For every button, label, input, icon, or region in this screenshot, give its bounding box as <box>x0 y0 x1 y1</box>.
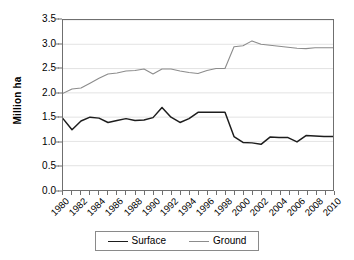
x-tick-mark <box>189 191 190 195</box>
line-chart: Million ha 0.00.51.01.52.02.53.03.5 1980… <box>0 0 354 260</box>
y-tick-mark <box>58 68 62 69</box>
x-tick-mark <box>316 191 317 195</box>
x-tick-mark <box>171 191 172 195</box>
x-tick-mark <box>116 191 117 195</box>
y-tick-mark <box>58 43 62 44</box>
x-tick-mark <box>153 191 154 195</box>
x-tick-mark <box>107 191 108 195</box>
x-tick-mark <box>234 191 235 195</box>
x-tick-mark <box>62 191 63 195</box>
y-tick-mark <box>58 19 62 20</box>
x-tick-mark <box>144 191 145 195</box>
x-tick-mark <box>162 191 163 195</box>
x-tick-mark <box>125 191 126 195</box>
x-tick-mark <box>180 191 181 195</box>
x-tick-mark <box>325 191 326 195</box>
y-tick-mark <box>58 117 62 118</box>
x-tick-mark <box>135 191 136 195</box>
x-tick-mark <box>334 191 335 195</box>
x-tick-mark <box>216 191 217 195</box>
x-tick-mark <box>225 191 226 195</box>
x-tick-mark <box>243 191 244 195</box>
x-tick-mark <box>280 191 281 195</box>
x-tick-mark <box>252 191 253 195</box>
x-tick-mark <box>289 191 290 195</box>
x-tick-mark <box>80 191 81 195</box>
x-tick-mark <box>307 191 308 195</box>
x-tick-mark <box>98 191 99 195</box>
x-tick-mark <box>271 191 272 195</box>
axis-tick-marks <box>0 0 354 260</box>
x-tick-mark <box>207 191 208 195</box>
x-tick-mark <box>261 191 262 195</box>
y-tick-mark <box>58 141 62 142</box>
y-tick-mark <box>58 92 62 93</box>
y-tick-mark <box>58 166 62 167</box>
x-tick-mark <box>298 191 299 195</box>
x-tick-mark <box>71 191 72 195</box>
x-tick-mark <box>198 191 199 195</box>
x-tick-mark <box>89 191 90 195</box>
